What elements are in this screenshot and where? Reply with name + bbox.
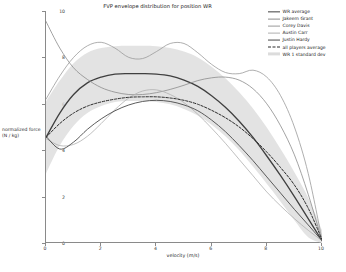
x-tick-label: 6 bbox=[201, 246, 221, 251]
y-axis-label: normalized force (N / kg) bbox=[2, 127, 44, 139]
legend-swatch-icon bbox=[267, 51, 280, 58]
x-tick-label: 4 bbox=[145, 246, 165, 251]
x-tick-mark bbox=[321, 243, 322, 246]
std-dev-band bbox=[46, 46, 322, 243]
x-tick-mark bbox=[45, 243, 46, 246]
x-tick-mark bbox=[155, 243, 156, 246]
legend-label: WR 1 standard dev bbox=[283, 52, 326, 57]
legend-swatch-icon bbox=[267, 29, 280, 36]
legend-label: Corey Davis bbox=[283, 23, 310, 28]
series-line bbox=[46, 97, 322, 240]
x-tick-label: 10 bbox=[311, 246, 331, 251]
chart-figure: FVP envelope distribution for position W… bbox=[0, 0, 346, 272]
legend-item[interactable]: Justin Hardy bbox=[267, 36, 343, 43]
x-axis-label: velocity (m/s) bbox=[45, 253, 321, 258]
legend-swatch-icon bbox=[267, 8, 280, 15]
legend-label: Jakeem Grant bbox=[283, 16, 314, 21]
legend-item[interactable]: Jakeem Grant bbox=[267, 15, 343, 22]
x-tick-label: 0 bbox=[35, 246, 55, 251]
legend-swatch-icon bbox=[267, 22, 280, 29]
chart-title: FVP envelope distribution for position W… bbox=[45, 3, 270, 9]
legend-item[interactable]: Austin Carr bbox=[267, 29, 343, 36]
x-tick-label: 2 bbox=[90, 246, 110, 251]
x-tick-mark bbox=[100, 243, 101, 246]
legend-item[interactable]: Corey Davis bbox=[267, 22, 343, 29]
legend-label: Justin Hardy bbox=[283, 37, 310, 42]
x-tick-mark bbox=[211, 243, 212, 246]
x-tick-mark bbox=[266, 243, 267, 246]
legend-label: Austin Carr bbox=[283, 30, 308, 35]
legend-swatch-icon bbox=[267, 36, 280, 43]
legend-swatch-icon bbox=[267, 15, 280, 22]
legend-swatch-icon bbox=[267, 44, 280, 51]
chart-legend: WR averageJakeem GrantCorey DavisAustin … bbox=[266, 7, 344, 59]
legend-item[interactable]: WR 1 standard dev bbox=[267, 51, 343, 58]
legend-label: WR average bbox=[283, 9, 310, 14]
x-tick-label: 8 bbox=[256, 246, 276, 251]
legend-label: all players average bbox=[283, 45, 326, 50]
legend-item[interactable]: all players average bbox=[267, 43, 343, 50]
legend-item[interactable]: WR average bbox=[267, 8, 343, 15]
